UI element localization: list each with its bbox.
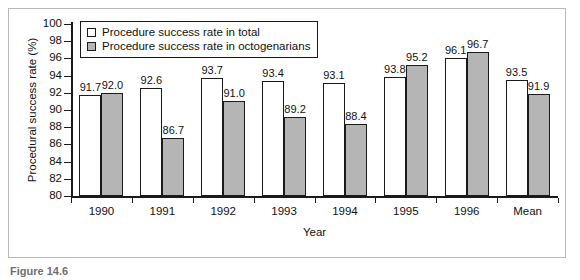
x-tick <box>315 198 316 203</box>
x-tick <box>375 198 376 203</box>
bar-value-label: 88.4 <box>339 110 373 122</box>
bar-value-label: 92.0 <box>95 79 129 91</box>
figure-caption: Figure 14.6 <box>10 265 68 278</box>
x-tick-label: Mean <box>493 205 563 217</box>
y-tick <box>64 196 72 197</box>
x-tick-label: 1990 <box>66 205 136 217</box>
y-tick-label: 88 <box>26 121 62 132</box>
bar-mean-octogenarians <box>528 94 550 196</box>
bar-1990-octogenarians <box>101 93 123 196</box>
x-tick <box>558 198 559 203</box>
y-tick <box>64 127 72 128</box>
bar-1994-octogenarians <box>345 124 367 196</box>
y-tick <box>64 24 72 25</box>
y-tick-label: 80 <box>26 190 62 201</box>
y-tick-label: 100 <box>26 18 62 29</box>
y-tick-label: 94 <box>26 70 62 81</box>
y-tick <box>64 110 72 111</box>
y-tick <box>64 76 72 77</box>
x-tick-label: 1994 <box>310 205 380 217</box>
y-tick <box>64 144 72 145</box>
x-tick-label: 1993 <box>249 205 319 217</box>
bar-value-label: 89.2 <box>278 103 312 115</box>
legend-item-octogenarians: Procedure success rate in octogenarians <box>87 39 310 53</box>
bar-chart: Procedural success rate (%) Year 8082848… <box>0 0 580 280</box>
y-tick <box>64 179 72 180</box>
bar-1996-octogenarians <box>467 52 489 196</box>
x-tick <box>497 198 498 203</box>
bar-1995-total <box>384 77 406 196</box>
legend-item-total: Procedure success rate in total <box>87 25 310 39</box>
x-tick-label: 1996 <box>432 205 502 217</box>
y-tick-label: 96 <box>26 52 62 63</box>
bar-value-label: 93.7 <box>195 64 229 76</box>
bar-value-label: 93.1 <box>317 69 351 81</box>
gray-square-icon <box>87 42 96 51</box>
x-tick <box>132 198 133 203</box>
bar-1991-total <box>140 88 162 196</box>
bar-value-label: 93.4 <box>256 67 290 79</box>
bar-value-label: 95.2 <box>400 51 434 63</box>
x-tick <box>71 198 72 203</box>
bar-value-label: 92.6 <box>134 74 168 86</box>
x-tick <box>193 198 194 203</box>
x-tick-label: 1995 <box>371 205 441 217</box>
y-tick <box>64 58 72 59</box>
x-axis-title: Year <box>71 226 558 238</box>
x-tick <box>436 198 437 203</box>
y-tick <box>64 93 72 94</box>
bar-1990-total <box>79 95 101 196</box>
x-tick <box>254 198 255 203</box>
bar-1996-total <box>445 58 467 196</box>
bar-1994-total <box>323 83 345 196</box>
bar-value-label: 91.0 <box>217 87 251 99</box>
y-tick-label: 86 <box>26 138 62 149</box>
x-tick-label: 1991 <box>127 205 197 217</box>
bar-value-label: 93.5 <box>500 66 534 78</box>
y-tick-label: 90 <box>26 104 62 115</box>
y-tick-label: 84 <box>26 156 62 167</box>
x-tick-label: 1992 <box>188 205 258 217</box>
bar-1993-total <box>262 81 284 196</box>
bar-1992-octogenarians <box>223 101 245 196</box>
bar-1993-octogenarians <box>284 117 306 196</box>
bar-1995-octogenarians <box>406 65 428 196</box>
bar-1991-octogenarians <box>162 138 184 196</box>
legend-label-total: Procedure success rate in total <box>102 26 260 38</box>
y-tick-label: 92 <box>26 87 62 98</box>
chart-legend: Procedure success rate in total Procedur… <box>80 21 318 58</box>
bar-value-label: 86.7 <box>156 124 190 136</box>
y-tick-label: 82 <box>26 173 62 184</box>
y-tick-label: 98 <box>26 35 62 46</box>
y-tick <box>64 162 72 163</box>
bar-mean-total <box>506 80 528 196</box>
y-tick <box>64 41 72 42</box>
bar-value-label: 91.9 <box>522 80 556 92</box>
bar-value-label: 96.7 <box>461 38 495 50</box>
legend-label-octogenarians: Procedure success rate in octogenarians <box>102 40 310 52</box>
white-square-icon <box>87 28 96 37</box>
